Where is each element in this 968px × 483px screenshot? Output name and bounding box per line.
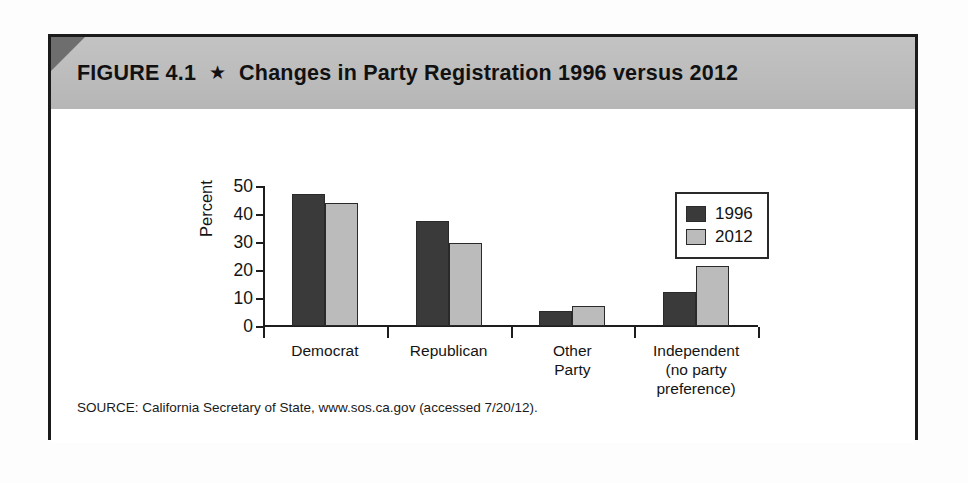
bar — [539, 311, 572, 326]
page-background: FIGURE 4.1 ★ Changes in Party Registrati… — [0, 0, 968, 483]
y-axis-tick-labels: 01020304050 — [219, 186, 253, 325]
figure-number: FIGURE 4.1 — [77, 61, 196, 86]
source-note: SOURCE: California Secretary of State, w… — [77, 400, 538, 415]
x-category-label-line: preference) — [620, 379, 772, 398]
y-tick-mark — [256, 186, 264, 188]
y-tick-mark — [256, 298, 264, 300]
figure-banner: FIGURE 4.1 ★ Changes in Party Registrati… — [51, 37, 915, 109]
x-tick-mark — [511, 327, 513, 338]
bar — [572, 306, 605, 326]
y-tick-label: 30 — [234, 232, 253, 253]
x-category-label-line: Independent — [620, 341, 772, 360]
chart-legend: 19962012 — [675, 192, 769, 259]
y-tick-label: 40 — [234, 204, 253, 225]
legend-item: 1996 — [686, 204, 753, 224]
figure-frame: FIGURE 4.1 ★ Changes in Party Registrati… — [48, 34, 918, 440]
bar — [663, 292, 696, 326]
legend-item: 2012 — [686, 227, 753, 247]
x-tick-mark — [263, 327, 265, 338]
y-tick-label: 50 — [234, 176, 253, 197]
legend-label: 2012 — [715, 227, 753, 247]
bar-group — [292, 186, 358, 326]
legend-swatch-icon — [686, 229, 706, 245]
y-tick-label: 20 — [234, 260, 253, 281]
bar — [696, 266, 729, 326]
bar-group — [539, 186, 605, 326]
y-tick-mark — [256, 242, 264, 244]
y-axis-label: Percent — [197, 180, 216, 237]
bar — [416, 221, 449, 326]
bar — [292, 194, 325, 326]
y-tick-label: 0 — [243, 316, 253, 337]
bar-group — [416, 186, 482, 326]
legend-label: 1996 — [715, 204, 753, 224]
y-tick-mark — [256, 270, 264, 272]
x-tick-mark — [387, 327, 389, 338]
bar — [449, 243, 482, 326]
x-tick-mark — [758, 327, 760, 338]
y-tick-label: 10 — [234, 288, 253, 309]
chart-plot-area: Percent 01020304050 DemocratRepublicanOt… — [51, 109, 915, 443]
x-tick-mark — [634, 327, 636, 338]
star-icon: ★ — [209, 63, 226, 82]
legend-swatch-icon — [686, 206, 706, 222]
figure-title: FIGURE 4.1 ★ Changes in Party Registrati… — [77, 61, 738, 86]
bar — [325, 203, 358, 326]
figure-title-text: Changes in Party Registration 1996 versu… — [239, 61, 738, 86]
y-tick-mark — [256, 214, 264, 216]
x-category-label-line: (no party — [620, 360, 772, 379]
x-category-label: Independent(no partypreference) — [620, 341, 772, 398]
